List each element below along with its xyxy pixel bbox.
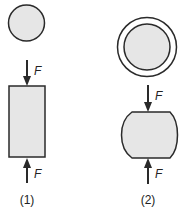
figure-label-1: (1): [20, 193, 35, 207]
force-arrow-bottom: [144, 158, 152, 184]
billet-side-view-rectangle: [9, 86, 45, 157]
arrowhead-down-icon: [144, 102, 152, 112]
barrel-top-view-inner-circle: [124, 24, 170, 70]
force-arrow-top: [144, 85, 152, 112]
arrowhead-down-icon: [23, 76, 31, 86]
force-label-top: F: [34, 64, 42, 78]
arrowhead-up-icon: [144, 158, 152, 168]
compression-diagram: F F (1) F F (2): [0, 0, 190, 217]
force-arrow-bottom: [23, 158, 31, 183]
figure-1: F F (1): [9, 5, 46, 207]
force-label-bottom: F: [34, 167, 42, 181]
barrel-side-view-shape: [122, 112, 178, 158]
arrowhead-up-icon: [23, 158, 31, 168]
figure-label-2: (2): [141, 193, 156, 207]
force-arrow-top: [23, 60, 31, 86]
force-label-top: F: [155, 89, 163, 103]
force-label-bottom: F: [155, 167, 163, 181]
figure-2: F F (2): [118, 18, 178, 208]
billet-top-view-circle: [9, 5, 45, 41]
